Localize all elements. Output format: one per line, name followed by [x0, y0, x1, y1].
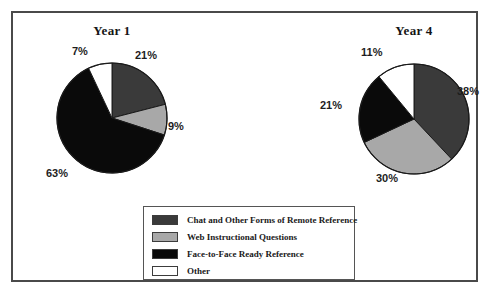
legend-item: Other	[144, 263, 354, 279]
pie-percent-label: 11%	[361, 46, 382, 58]
pie-percent-label: 21%	[320, 99, 342, 111]
legend-item: Chat and Other Forms of Remote Reference	[144, 212, 354, 228]
pie-percent-label: 21%	[135, 49, 157, 61]
pie-chart-2	[356, 61, 472, 177]
legend-label: Chat and Other Forms of Remote Reference	[187, 216, 357, 225]
pie-percent-label: 30%	[376, 172, 398, 184]
figure-frame: Year 121%9%63%7%Year 438%30%21%11% Chat …	[11, 11, 478, 282]
legend-label: Face-to-Face Ready Reference	[187, 250, 304, 259]
pie-percent-label: 9%	[168, 120, 184, 132]
legend-swatch-icon	[152, 232, 178, 242]
chart-legend: Chat and Other Forms of Remote Reference…	[143, 206, 355, 280]
pie-percent-label: 38%	[457, 85, 479, 97]
pie-title-2: Year 4	[344, 23, 484, 39]
pie-title-1: Year 1	[42, 23, 182, 39]
legend-item: Web Instructional Questions	[144, 229, 354, 245]
legend-label: Web Instructional Questions	[187, 233, 297, 242]
pie-percent-label: 7%	[72, 45, 88, 57]
pie-percent-label: 63%	[46, 167, 68, 179]
legend-swatch-icon	[152, 249, 178, 259]
legend-swatch-icon	[152, 215, 178, 225]
pie-chart-1	[54, 60, 170, 176]
legend-item: Face-to-Face Ready Reference	[144, 246, 354, 262]
legend-label: Other	[187, 267, 210, 276]
legend-swatch-icon	[152, 266, 178, 276]
